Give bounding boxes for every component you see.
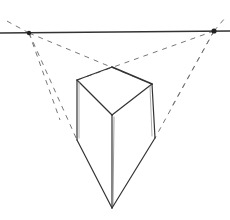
horizon-line [0, 31, 230, 33]
edge-top-right [112, 67, 152, 84]
edge-top-left [77, 67, 112, 80]
edge-right-center [112, 84, 152, 115]
guide-left-down-long [29, 33, 60, 120]
guide-lines [5, 18, 225, 140]
guide-left-ext [5, 20, 29, 33]
guide-right-down-long [170, 31, 214, 110]
box [77, 67, 155, 208]
edge-left-apex [77, 140, 112, 208]
edge-right-vert [152, 84, 155, 138]
edge-center-vert2 [113, 117, 114, 205]
edge-left-center [77, 80, 112, 115]
guide-left-to-down [29, 33, 77, 140]
edge-right-apex [112, 138, 155, 208]
left-vanishing-point [27, 31, 31, 35]
perspective-diagram [0, 0, 230, 220]
edge-right-vert2 [150, 86, 152, 136]
right-vanishing-point [211, 28, 216, 33]
